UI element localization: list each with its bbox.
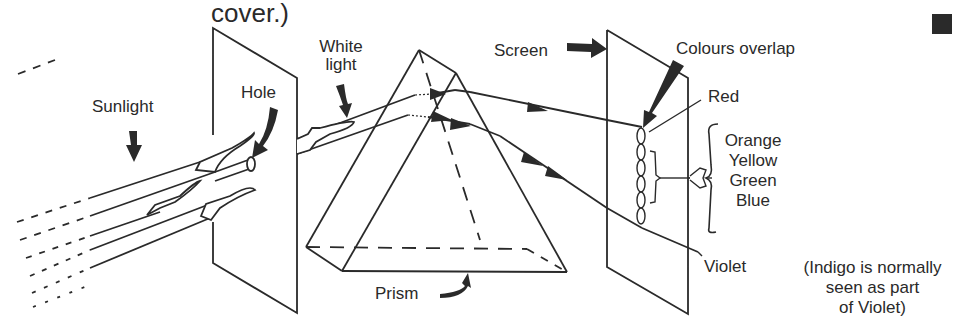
white-light-arrow-icon: [336, 84, 352, 118]
sunlight-arrow-icon: [126, 131, 142, 162]
screen-label: Screen: [494, 42, 548, 59]
sunlight-rays: [17, 14, 215, 307]
ray-arrowhead-icon: [545, 166, 567, 180]
colours-overlap-label: Colours overlap: [676, 40, 795, 57]
prism-dispersion-diagram: cover.) Sunlight Hole White light Prism …: [0, 0, 978, 336]
hole-arrow-icon: [252, 107, 278, 158]
orange-label: Orange: [718, 131, 788, 151]
white-light-label: White light: [310, 38, 372, 73]
ray-arrowhead-icon: [430, 88, 446, 100]
red-label: Red: [708, 88, 739, 105]
sunlight-label: Sunlight: [92, 98, 153, 115]
refracted-rays: [428, 90, 698, 252]
indigo-note: (Indigo is normally seen as part of Viol…: [780, 258, 965, 318]
hole-label: Hole: [241, 84, 276, 101]
ray-arrowhead-icon: [521, 152, 543, 166]
indigo-note-line3: of Violet): [780, 298, 965, 318]
caption-fragment: cover.): [211, 0, 289, 26]
screen-arrow-icon: [567, 38, 607, 58]
hole-card: [213, 28, 297, 313]
square-bullet-icon: [932, 14, 952, 34]
indigo-note-line2: seen as part: [780, 278, 965, 298]
blue-label: Blue: [718, 191, 788, 211]
green-label: Green: [718, 171, 788, 191]
middle-colours-list: Orange Yellow Green Blue: [718, 131, 788, 211]
prism-arrow-icon: [440, 273, 471, 298]
colours-overlap-arrow-icon: [643, 60, 684, 128]
white-light-label-line1: White: [310, 38, 372, 55]
indigo-note-line1: (Indigo is normally: [780, 258, 965, 278]
violet-label: Violet: [704, 258, 746, 275]
yellow-label: Yellow: [718, 151, 788, 171]
prism-label: Prism: [375, 285, 418, 302]
spectrum-bands: [637, 128, 645, 224]
spectrum-brace: [650, 151, 712, 203]
white-light-label-line2: light: [310, 56, 372, 73]
